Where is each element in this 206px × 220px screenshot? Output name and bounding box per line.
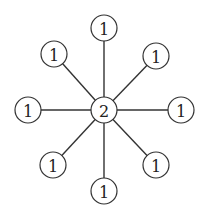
- leaf-node-left: 1: [15, 97, 41, 123]
- leaf-node-top-right: 1: [143, 43, 169, 69]
- node-label: 1: [99, 20, 109, 39]
- leaf-node-bottom-right: 1: [143, 152, 169, 178]
- leaf-node-right: 1: [168, 97, 194, 123]
- leaf-node-top: 1: [91, 15, 117, 41]
- node-label: 1: [49, 46, 59, 65]
- node-label: 1: [23, 102, 33, 121]
- leaf-node-top-left: 1: [41, 41, 67, 67]
- node-label: 1: [48, 157, 58, 176]
- star-graph-diagram: 111111112: [0, 0, 206, 220]
- node-label: 1: [151, 48, 161, 67]
- node-label: 1: [99, 183, 109, 202]
- leaf-node-bottom: 1: [91, 178, 117, 204]
- node-label: 1: [151, 157, 161, 176]
- leaf-node-bottom-left: 1: [40, 152, 66, 178]
- graph-canvas: 111111112: [0, 0, 206, 220]
- node-label: 2: [99, 102, 109, 121]
- node-label: 1: [176, 102, 186, 121]
- center-node: 2: [91, 97, 117, 123]
